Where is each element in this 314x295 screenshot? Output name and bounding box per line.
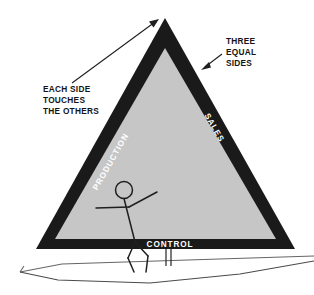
sailboat-hull [20, 256, 314, 283]
diagram-svg: PRODUCTION SALES CONTROL [0, 0, 314, 295]
diagram-canvas: PRODUCTION SALES CONTROL EACH SIDE TOUCH… [0, 0, 314, 295]
arrow-to-right-side [201, 54, 222, 70]
annotation-each-side-touches: EACH SIDE TOUCHES THE OTHERS [43, 84, 99, 118]
annotation-three-equal-sides: THREE EQUAL SIDES [226, 36, 256, 70]
side-label-control: CONTROL [147, 240, 194, 249]
